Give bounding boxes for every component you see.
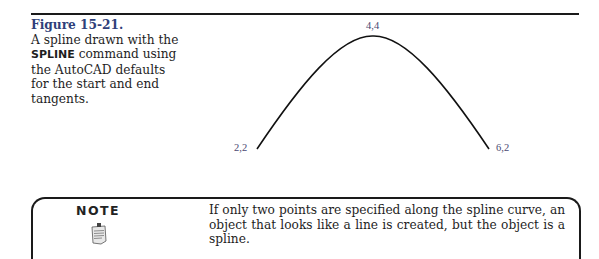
point-label-start: 2,2: [234, 142, 247, 153]
note-title: NOTE: [76, 203, 120, 218]
note-text: If only two points are specified along t…: [209, 203, 565, 247]
point-label-peak: 4,4: [366, 20, 379, 31]
point-label-end: 6,2: [496, 142, 509, 153]
spline-figure: 2,2 4,4 6,2: [200, 15, 599, 185]
figure-label: Figure 15-21.: [31, 18, 181, 33]
figure-caption: Figure 15-21. A spline drawn with the SP…: [31, 18, 181, 107]
caption-command: SPLINE: [31, 48, 75, 61]
notepad-icon: [90, 223, 108, 245]
caption-text-pre: A spline drawn with the: [31, 33, 178, 47]
spline-curve: [200, 15, 599, 185]
